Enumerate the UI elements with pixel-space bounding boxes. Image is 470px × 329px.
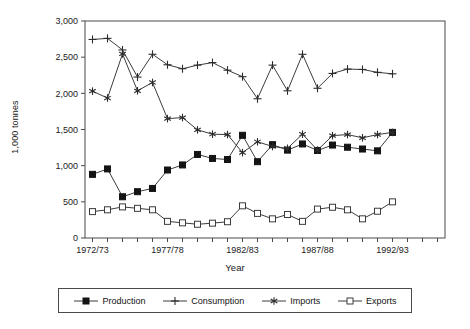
- data-point-marker-exports: [330, 204, 336, 210]
- y-axis-tick-label: 3,000: [55, 16, 78, 26]
- data-point-marker-consumption: [269, 61, 277, 69]
- data-point-marker-production: [225, 157, 231, 163]
- data-point-marker-exports: [270, 216, 276, 222]
- x-axis-tick-label: 1982/83: [226, 245, 259, 255]
- data-point-marker-exports: [180, 220, 186, 226]
- chart-figure: 1,000 tonnes 05001,0001,5002,0002,5003,0…: [0, 0, 470, 329]
- data-point-marker-imports: [149, 79, 156, 87]
- legend-marker-open-square-icon: [337, 295, 363, 307]
- data-point-marker-exports: [390, 199, 396, 205]
- data-point-marker-production: [150, 185, 156, 191]
- x-axis-tick-label: 1987/88: [301, 245, 334, 255]
- x-axis-tick-label: 1992/93: [376, 245, 409, 255]
- legend-items: ProductionConsumptionImportsExports: [59, 289, 411, 312]
- legend-label: Exports: [366, 296, 397, 306]
- data-point-marker-production: [375, 148, 381, 154]
- data-point-marker-production: [135, 189, 141, 195]
- data-point-marker-exports: [315, 206, 321, 212]
- data-point-marker-exports: [347, 298, 353, 304]
- x-axis-label: Year: [0, 262, 470, 273]
- data-point-marker-exports: [300, 218, 306, 224]
- data-point-marker-exports: [90, 209, 96, 215]
- legend-label: Production: [102, 296, 145, 306]
- legend-marker-plus-icon: [162, 295, 188, 307]
- data-point-marker-exports: [105, 207, 111, 213]
- legend-marker-asterisk-icon: [261, 295, 287, 307]
- series-line-production: [93, 132, 393, 196]
- plot-area: 05001,0001,5002,0002,5003,0001972/731977…: [0, 0, 470, 260]
- series-exports: [90, 199, 396, 227]
- y-axis-tick-label: 2,000: [55, 89, 78, 99]
- data-point-marker-exports: [195, 221, 201, 227]
- data-point-marker-exports: [210, 220, 216, 226]
- data-point-marker-imports: [194, 126, 201, 134]
- x-axis-tick-label: 1977/78: [151, 245, 184, 255]
- legend-label: Imports: [290, 296, 320, 306]
- data-point-marker-production: [165, 167, 171, 173]
- data-point-marker-exports: [240, 203, 246, 209]
- data-point-marker-production: [180, 162, 186, 168]
- data-point-marker-consumption: [104, 34, 112, 42]
- y-axis-tick-label: 2,500: [55, 52, 78, 62]
- data-point-marker-consumption: [254, 95, 262, 103]
- data-point-marker-exports: [255, 210, 261, 216]
- data-point-marker-exports: [120, 204, 126, 210]
- data-point-marker-exports: [375, 208, 381, 214]
- legend-marker-filled-square-icon: [73, 295, 99, 307]
- legend-item-imports[interactable]: Imports: [261, 295, 320, 307]
- data-point-marker-consumption: [179, 65, 187, 73]
- data-point-marker-production: [330, 142, 336, 148]
- data-point-marker-production: [345, 144, 351, 150]
- data-point-marker-consumption: [171, 297, 179, 305]
- data-point-marker-production: [360, 146, 366, 152]
- data-point-marker-consumption: [374, 68, 382, 76]
- y-axis-tick-label: 500: [63, 197, 78, 207]
- legend-label: Consumption: [191, 296, 244, 306]
- data-point-marker-consumption: [149, 50, 157, 58]
- data-point-marker-production: [120, 194, 126, 200]
- data-point-marker-production: [300, 141, 306, 147]
- data-point-marker-consumption: [209, 59, 217, 67]
- legend-item-exports[interactable]: Exports: [337, 295, 397, 307]
- x-axis-tick-label: 1972/73: [76, 245, 109, 255]
- data-point-marker-imports: [254, 138, 261, 146]
- y-axis-tick-label: 1,000: [55, 161, 78, 171]
- data-point-marker-production: [83, 298, 89, 304]
- data-point-marker-imports: [134, 87, 141, 95]
- data-point-marker-consumption: [389, 70, 397, 78]
- data-point-marker-production: [240, 132, 246, 138]
- data-point-marker-exports: [345, 207, 351, 213]
- data-point-marker-consumption: [89, 35, 97, 43]
- data-point-marker-consumption: [134, 73, 142, 81]
- data-point-marker-imports: [89, 87, 96, 95]
- data-point-marker-production: [195, 151, 201, 157]
- data-point-marker-consumption: [284, 87, 292, 95]
- data-point-marker-production: [255, 159, 261, 165]
- data-point-marker-exports: [135, 205, 141, 211]
- legend-item-consumption[interactable]: Consumption: [162, 295, 244, 307]
- data-point-marker-consumption: [359, 65, 367, 73]
- data-point-marker-consumption: [164, 61, 172, 69]
- y-axis-tick-label: 0: [73, 233, 78, 243]
- data-point-marker-imports: [104, 94, 111, 102]
- data-point-marker-consumption: [224, 66, 232, 74]
- data-point-marker-production: [90, 171, 96, 177]
- series-imports: [89, 50, 396, 156]
- data-point-marker-exports: [150, 207, 156, 213]
- data-point-marker-production: [210, 155, 216, 161]
- legend-item-production[interactable]: Production: [73, 295, 145, 307]
- series-production: [90, 129, 396, 199]
- data-point-marker-consumption: [299, 50, 307, 58]
- data-point-marker-exports: [285, 211, 291, 217]
- data-point-marker-exports: [165, 218, 171, 224]
- y-axis-tick-label: 1,500: [55, 125, 78, 135]
- data-point-marker-production: [105, 166, 111, 172]
- chart-legend: ProductionConsumptionImportsExports: [58, 288, 412, 313]
- data-point-marker-consumption: [239, 73, 247, 81]
- data-point-marker-exports: [360, 216, 366, 222]
- data-point-marker-consumption: [344, 65, 352, 73]
- data-point-marker-consumption: [194, 61, 202, 69]
- data-point-marker-exports: [225, 219, 231, 225]
